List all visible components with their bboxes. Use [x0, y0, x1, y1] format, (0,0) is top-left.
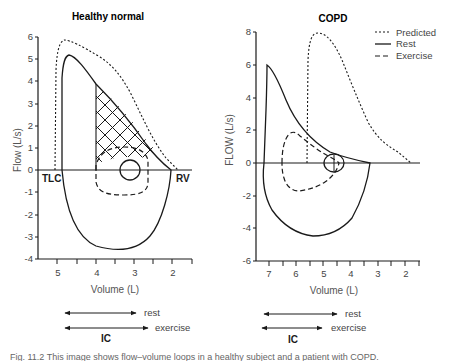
exercise-curve — [282, 132, 339, 191]
y-tick-label: -2 — [25, 209, 33, 220]
x-axis-label: Volume (L) — [91, 284, 139, 295]
x-tick-label: 3 — [375, 268, 380, 279]
legend-predicted: Predicted — [396, 27, 436, 38]
y-tick-label: 3 — [28, 98, 33, 109]
copd-chart: COPD 8 6 4 2 0 -2 -4 -6 FLOW (L/s) — [224, 13, 436, 345]
y-tick-label: 1 — [28, 142, 33, 153]
x-ticks — [269, 261, 419, 266]
y-tick-label: 4 — [246, 92, 251, 103]
ic-rest-label: rest — [345, 308, 361, 319]
y-tick-label: 0 — [246, 157, 251, 168]
y-axis-label: Flow (L/s) — [12, 128, 23, 172]
x-tick-label: 6 — [293, 268, 298, 279]
ic-label: IC — [101, 333, 111, 344]
ic-exercise-label: exercise — [155, 322, 190, 333]
y-tick-label: -2 — [243, 190, 251, 201]
y-axis-label: FLOW (L/s) — [224, 114, 235, 166]
x-ticks — [57, 259, 192, 264]
legend: Predicted Rest Exercise — [375, 27, 436, 61]
y-tick-label: 8 — [246, 26, 251, 37]
y-tick-label: 0 — [28, 164, 33, 175]
x-tick-label: 2 — [403, 268, 408, 279]
figure-caption: Fig. 11.2 This image shows flow–volume l… — [10, 352, 379, 361]
legend-exercise: Exercise — [396, 50, 432, 61]
y-tick-label: -4 — [243, 222, 251, 233]
ic-rest-label: rest — [144, 307, 160, 318]
x-axis-label: Volume (L) — [310, 285, 358, 296]
x-tick-label: 3 — [132, 267, 137, 278]
y-tick-label: -6 — [243, 255, 251, 266]
y-tick-label: 2 — [246, 124, 251, 135]
x-tick-label: 5 — [321, 268, 326, 279]
x-tick-label: 2 — [170, 267, 175, 278]
x-tick-label: 5 — [55, 267, 60, 278]
figure-canvas: Healthy normal 6 5 4 3 2 1 0 -1 -2 -3 -4… — [0, 0, 454, 361]
y-tick-label: -4 — [25, 253, 33, 264]
x-tick-label: 4 — [94, 267, 99, 278]
healthy-normal-chart: Healthy normal 6 5 4 3 2 1 0 -1 -2 -3 -4… — [12, 11, 192, 344]
ic-exercise-label: exercise — [331, 322, 366, 333]
y-tick-label: 4 — [28, 75, 33, 86]
rv-label: RV — [176, 173, 190, 184]
y-tick-label: 2 — [28, 120, 33, 131]
chart-title-copd: COPD — [319, 13, 348, 24]
ic-label: IC — [288, 334, 298, 345]
y-tick-label: -1 — [25, 186, 33, 197]
x-tick-label: 4 — [348, 268, 353, 279]
chart-title-healthy: Healthy normal — [72, 11, 144, 22]
x-tick-label: 7 — [266, 268, 271, 279]
y-tick-label: 6 — [246, 59, 251, 70]
y-tick-label: 6 — [28, 31, 33, 42]
y-tick-label: -3 — [25, 231, 33, 242]
tlc-label: TLC — [42, 173, 61, 184]
legend-rest: Rest — [396, 38, 416, 49]
y-tick-label: 5 — [28, 53, 33, 64]
